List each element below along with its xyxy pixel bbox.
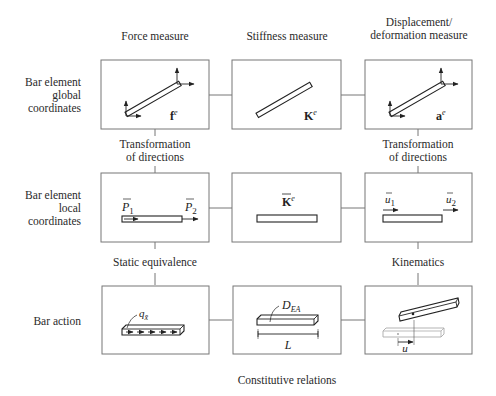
box-action-constitutive: DEA L bbox=[233, 286, 341, 354]
symbol-length: L bbox=[284, 338, 292, 352]
box-global-stiffness: Ke bbox=[232, 60, 341, 129]
row-label-local-line2: local bbox=[59, 202, 81, 214]
horizontal-bar bbox=[257, 215, 317, 222]
column-header-stiffness: Stiffness measure bbox=[246, 30, 327, 42]
bar-element-diagram: Force measure Stiffness measure Displace… bbox=[0, 0, 496, 396]
box-action-static: qx̄ bbox=[102, 286, 209, 354]
row-label-global: Bar element global coordinates bbox=[25, 76, 82, 114]
symbol-axial-displacement: u bbox=[402, 342, 408, 354]
prismatic-bar bbox=[257, 315, 318, 325]
relation-transform-left-line2: of directions bbox=[126, 151, 184, 163]
relation-transform-right-line2: of directions bbox=[389, 151, 447, 163]
horizontal-bar bbox=[383, 215, 442, 222]
relation-static-equivalence: Static equivalence bbox=[113, 256, 197, 269]
relation-kinematics: Kinematics bbox=[392, 256, 445, 268]
row-label-local: Bar element local coordinates bbox=[25, 189, 82, 227]
relation-transform-right-line1: Transformation bbox=[382, 138, 453, 150]
row-label-local-line3: coordinates bbox=[28, 215, 82, 227]
column-header-displacement-line1: Displacement/ bbox=[386, 16, 453, 29]
row-label-global-line2: global bbox=[52, 89, 81, 102]
box-global-displacement: ae bbox=[365, 60, 472, 129]
relation-transform-left-line1: Transformation bbox=[119, 138, 190, 150]
column-header-force: Force measure bbox=[121, 30, 188, 42]
row-label-action: Bar action bbox=[33, 315, 81, 327]
row-label-global-line3: coordinates bbox=[28, 102, 82, 114]
box-local-force: P1 P2 bbox=[101, 173, 209, 242]
box-local-displacement: u1 u2 bbox=[365, 173, 472, 242]
box-action-kinematics: u bbox=[365, 286, 472, 354]
row-label-local-line1: Bar element bbox=[25, 189, 82, 201]
prismatic-bar bbox=[122, 325, 184, 335]
box-global-force: fe bbox=[101, 60, 209, 129]
column-header-displacement-line2: deformation measure bbox=[370, 29, 467, 41]
undeformed-bar bbox=[383, 328, 444, 337]
box-local-stiffness: Ke bbox=[232, 173, 341, 242]
relation-constitutive: Constitutive relations bbox=[238, 374, 337, 386]
row-label-global-line1: Bar element bbox=[25, 76, 82, 88]
